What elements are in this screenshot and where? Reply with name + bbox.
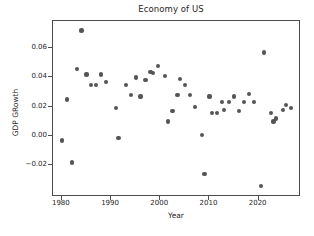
scatter-point — [227, 100, 231, 104]
x-tick-label: 2000 — [150, 199, 168, 207]
scatter-point — [138, 94, 142, 98]
scatter-point — [274, 116, 278, 120]
scatter-point — [99, 72, 103, 76]
scatter-point — [151, 71, 155, 75]
scatter-point — [202, 172, 206, 176]
y-tick-label: 0.02 — [0, 102, 52, 110]
x-tick-label: 2020 — [249, 199, 267, 207]
scatter-point — [183, 83, 187, 87]
scatter-point — [259, 184, 263, 188]
scatter-point — [210, 111, 214, 115]
scatter-point — [89, 83, 93, 87]
scatter-point — [104, 80, 108, 84]
scatter-point — [79, 28, 83, 32]
scatter-point — [232, 94, 236, 98]
scatter-point — [60, 138, 64, 142]
scatter-point — [134, 75, 138, 79]
scatter-point — [284, 103, 288, 107]
scatter-point — [156, 64, 160, 68]
y-tick-label: 0.04 — [0, 72, 52, 80]
chart-title: Economy of US — [0, 4, 314, 14]
x-tick-mark — [110, 196, 111, 200]
scatter-point — [237, 109, 241, 113]
scatter-point — [281, 108, 285, 112]
scatter-point — [114, 106, 118, 110]
scatter-point — [170, 109, 174, 113]
scatter-point — [242, 100, 246, 104]
scatter-point — [175, 93, 179, 97]
scatter-point — [247, 92, 251, 96]
x-tick-mark — [258, 196, 259, 200]
scatter-point — [84, 72, 88, 76]
y-tick-label: 0.00 — [0, 131, 52, 139]
scatter-point — [215, 111, 219, 115]
x-tick-label: 1990 — [101, 199, 119, 207]
x-tick-label: 1980 — [52, 199, 70, 207]
scatter-point — [200, 133, 204, 137]
scatter-point — [222, 108, 226, 112]
scatter-point — [188, 93, 192, 97]
scatter-point — [289, 106, 293, 110]
scatter-point — [124, 83, 128, 87]
scatter-point — [262, 50, 266, 54]
scatter-point — [193, 105, 197, 109]
x-tick-mark — [159, 196, 160, 200]
x-tick-label: 2010 — [200, 199, 218, 207]
scatter-point — [252, 100, 256, 104]
y-tick-label: 0.06 — [0, 43, 52, 51]
scatter-point — [220, 100, 224, 104]
x-axis-label: Year — [52, 211, 300, 220]
scatter-point — [143, 78, 147, 82]
scatter-point — [166, 119, 170, 123]
x-tick-mark — [208, 196, 209, 200]
chart-figure: Economy of US GDP GRowth −0.020.000.020.… — [0, 0, 314, 236]
scatter-point — [94, 83, 98, 87]
scatter-point — [178, 77, 182, 81]
y-axis-label: GDP GRowth — [11, 68, 20, 158]
scatter-points — [53, 21, 299, 195]
plot-area — [52, 20, 300, 196]
scatter-point — [129, 93, 133, 97]
scatter-point — [163, 74, 167, 78]
scatter-point — [116, 136, 120, 140]
scatter-point — [65, 97, 69, 101]
y-tick-label: −0.02 — [0, 160, 52, 168]
scatter-point — [207, 94, 211, 98]
scatter-point — [269, 111, 273, 115]
scatter-point — [75, 67, 79, 71]
scatter-point — [70, 160, 74, 164]
x-tick-mark — [61, 196, 62, 200]
